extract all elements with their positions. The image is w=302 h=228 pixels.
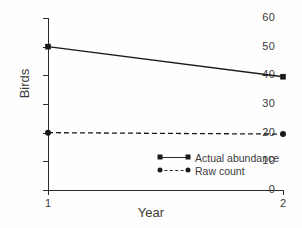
chart-figure: 0102030405060 12 Birds Year Actual abund… bbox=[0, 0, 302, 228]
x-axis-line bbox=[48, 190, 283, 191]
y-axis-label: Birds bbox=[17, 54, 32, 114]
x-tick bbox=[283, 190, 284, 195]
series-line bbox=[48, 47, 283, 77]
legend-item-actual-abundance[interactable]: Actual abundance bbox=[157, 151, 279, 164]
legend-swatch-solid-square bbox=[157, 152, 191, 163]
legend-label: Actual abundance bbox=[195, 152, 279, 164]
x-tick bbox=[48, 190, 49, 195]
x-axis-label: Year bbox=[0, 205, 302, 220]
chart-legend: Actual abundance Raw count bbox=[157, 151, 279, 177]
legend-swatch-dashed-circle bbox=[157, 165, 191, 176]
data-point-marker bbox=[280, 74, 286, 80]
legend-label: Raw count bbox=[195, 165, 245, 177]
legend-item-raw-count[interactable]: Raw count bbox=[157, 164, 279, 177]
data-point-marker bbox=[280, 131, 286, 137]
series-line bbox=[48, 133, 283, 134]
data-point-marker bbox=[45, 44, 51, 50]
data-point-marker bbox=[45, 130, 51, 136]
